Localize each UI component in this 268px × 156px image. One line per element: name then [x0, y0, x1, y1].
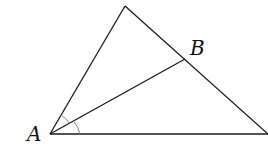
- angle-arc-lower: [74, 121, 80, 134]
- segment-AB: [50, 59, 185, 134]
- label-A: A: [27, 124, 41, 144]
- label-B: B: [190, 38, 205, 58]
- side-right: [125, 6, 268, 134]
- angle-arc-upper: [61, 115, 69, 123]
- triangle-diagram: A B: [0, 0, 268, 156]
